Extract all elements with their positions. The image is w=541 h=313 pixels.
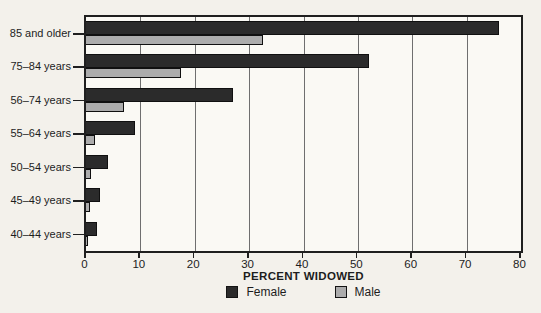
legend-label-male: Male xyxy=(355,285,381,299)
category-tick-4 xyxy=(73,167,85,169)
widowed-bar-chart-figure: PERCENT WIDOWED FemaleMale 85 and older7… xyxy=(0,0,541,313)
category-tick-2 xyxy=(73,100,85,102)
bar-male-0 xyxy=(86,35,263,45)
legend: FemaleMale xyxy=(84,285,523,299)
category-tick-3 xyxy=(73,133,85,135)
gridline-20 xyxy=(195,17,196,251)
category-label-0: 85 and older xyxy=(0,26,71,40)
bar-female-0 xyxy=(86,21,499,35)
gridline-30 xyxy=(249,17,250,251)
bar-male-3 xyxy=(86,135,95,145)
bar-female-6 xyxy=(86,222,97,236)
bar-male-4 xyxy=(86,169,91,179)
gridline-10 xyxy=(140,17,141,251)
x-tick-label-20: 20 xyxy=(178,258,208,270)
category-label-2: 56–74 years xyxy=(0,93,71,107)
bar-male-1 xyxy=(86,68,181,78)
x-tick-label-70: 70 xyxy=(450,258,480,270)
category-label-4: 50–54 years xyxy=(0,160,71,174)
bar-male-2 xyxy=(86,102,124,112)
gridline-70 xyxy=(467,17,468,251)
gridline-50 xyxy=(358,17,359,251)
category-tick-0 xyxy=(73,33,85,35)
bar-female-1 xyxy=(86,54,369,68)
category-label-6: 40–44 years xyxy=(0,227,71,241)
x-tick-label-30: 30 xyxy=(233,258,263,270)
legend-swatch-female xyxy=(226,286,238,298)
bar-female-5 xyxy=(86,188,100,202)
category-label-3: 55–64 years xyxy=(0,126,71,140)
x-tick-label-50: 50 xyxy=(341,258,371,270)
bar-female-3 xyxy=(86,121,135,135)
x-tick-label-60: 60 xyxy=(396,258,426,270)
gridline-40 xyxy=(304,17,305,251)
legend-swatch-male xyxy=(335,286,347,298)
x-tick-label-80: 80 xyxy=(505,258,535,270)
gridline-60 xyxy=(412,17,413,251)
category-tick-5 xyxy=(73,200,85,202)
x-axis-title: PERCENT WIDOWED xyxy=(84,270,523,282)
x-tick-label-10: 10 xyxy=(124,258,154,270)
bar-female-2 xyxy=(86,88,233,102)
legend-label-female: Female xyxy=(246,285,286,299)
legend-item-male: Male xyxy=(335,285,381,299)
x-tick-label-40: 40 xyxy=(287,258,317,270)
bar-male-5 xyxy=(86,202,90,212)
category-label-1: 75–84 years xyxy=(0,59,71,73)
legend-item-female: Female xyxy=(226,285,286,299)
bar-female-4 xyxy=(86,155,108,169)
plot-area xyxy=(84,15,523,253)
category-label-5: 45–49 years xyxy=(0,193,71,207)
bar-male-6 xyxy=(86,236,88,246)
x-tick-label-0: 0 xyxy=(70,258,100,270)
category-tick-6 xyxy=(73,234,85,236)
category-tick-1 xyxy=(73,66,85,68)
